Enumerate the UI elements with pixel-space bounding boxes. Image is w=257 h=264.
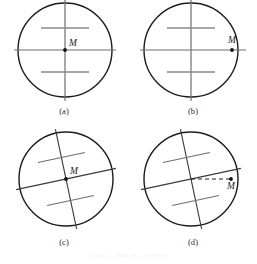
point-m-label: M bbox=[69, 166, 79, 176]
panel-a: M (a) bbox=[0, 0, 128, 125]
reticle-tick-upper bbox=[163, 152, 210, 162]
point-m-label: M bbox=[68, 38, 78, 48]
point-m-marker bbox=[64, 177, 68, 181]
panel-a-diagram: M bbox=[0, 0, 128, 106]
point-m-label: M bbox=[226, 181, 236, 191]
panel-b-caption: (b) bbox=[129, 106, 257, 116]
figure-caption: Figure ... Reticle ... patterns bbox=[0, 251, 257, 259]
panel-d-diagram: M bbox=[129, 127, 257, 237]
point-m-label: M bbox=[227, 35, 237, 45]
reticle-tick-upper bbox=[38, 152, 85, 162]
panel-b-diagram: M bbox=[129, 0, 257, 106]
panel-c: M (c) bbox=[0, 127, 128, 252]
point-m-marker bbox=[230, 48, 234, 52]
panel-b: M (b) bbox=[129, 0, 257, 125]
reticle-tick-lower bbox=[172, 196, 219, 206]
reticle-tick-lower bbox=[47, 196, 94, 206]
panel-d: M (d) bbox=[129, 127, 257, 252]
panel-c-diagram: M bbox=[0, 127, 128, 237]
panel-d-caption: (d) bbox=[129, 237, 257, 247]
figure-root: M (a) M (b) bbox=[0, 0, 257, 264]
panel-c-caption: (c) bbox=[0, 237, 128, 247]
point-m-marker bbox=[63, 48, 67, 52]
panel-a-caption: (a) bbox=[0, 106, 128, 116]
